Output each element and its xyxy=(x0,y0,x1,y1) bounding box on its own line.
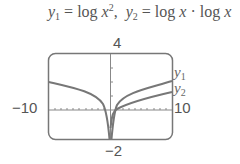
graph-window xyxy=(0,0,240,164)
